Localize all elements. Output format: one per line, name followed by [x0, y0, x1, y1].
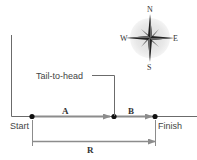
resultant-label: R	[87, 145, 94, 155]
compass-rose-icon	[126, 14, 174, 62]
tail-to-head-label: Tail-to-head	[36, 71, 83, 81]
vector-b-label: B	[128, 106, 134, 116]
compass-east-label: E	[173, 34, 178, 43]
compass-south-label: S	[147, 63, 151, 72]
tail-to-head-leader-line	[92, 76, 115, 117]
vector-diagram: Tail-to-head A B Start Finish R N S W E	[0, 0, 197, 160]
start-dot	[29, 114, 34, 119]
finish-dot	[152, 114, 157, 119]
finish-label: Finish	[158, 121, 182, 131]
start-label: Start	[10, 121, 30, 131]
compass-north-label: N	[147, 5, 153, 14]
vector-a-label: A	[62, 106, 69, 116]
compass-west-label: W	[120, 34, 128, 43]
